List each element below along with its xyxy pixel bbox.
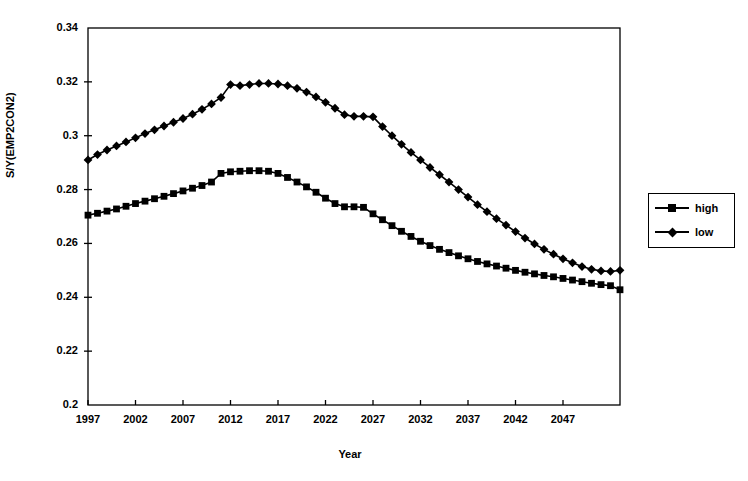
legend-item-low: low xyxy=(655,222,713,242)
square-marker-icon xyxy=(668,204,676,212)
legend-label-low: low xyxy=(695,226,713,238)
chart-legend: high low xyxy=(648,193,735,248)
plot-area xyxy=(0,0,748,481)
chart-figure: S/Y(EMP2CON2) Year 0.20.220.240.260.280.… xyxy=(0,0,748,481)
legend-line-low xyxy=(655,231,689,233)
diamond-marker-icon xyxy=(667,227,677,237)
legend-line-high xyxy=(655,207,689,209)
legend-label-high: high xyxy=(695,202,718,214)
legend-item-high: high xyxy=(655,198,718,218)
